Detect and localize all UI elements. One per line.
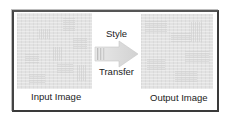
input-image-caption: Input Image xyxy=(31,92,81,102)
output-image-caption: Output Image xyxy=(150,93,208,103)
texture-patch xyxy=(63,17,75,31)
texture-patch xyxy=(39,29,51,39)
arrow-label-style: Style xyxy=(106,29,127,39)
texture-patch xyxy=(147,58,165,70)
texture-patch xyxy=(53,47,63,61)
texture-patch xyxy=(175,70,197,82)
texture-patch xyxy=(185,50,209,62)
texture-patch xyxy=(145,20,167,32)
input-image xyxy=(17,13,92,89)
texture-patch xyxy=(77,65,87,81)
texture-patch xyxy=(171,32,191,42)
texture-patch xyxy=(191,22,203,42)
texture-patch xyxy=(73,37,87,49)
texture-patch xyxy=(25,53,39,63)
texture-patch xyxy=(57,63,73,73)
right-arrow-icon xyxy=(94,40,139,68)
output-image xyxy=(141,14,213,89)
arrow-label-transfer: Transfer xyxy=(99,67,134,77)
texture-patch xyxy=(29,73,45,83)
